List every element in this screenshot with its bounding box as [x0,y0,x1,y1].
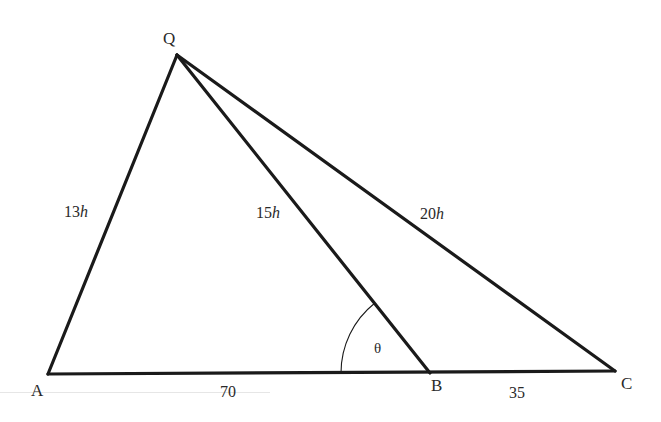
vertex-label-a: A [31,382,43,399]
vertex-label-b: B [431,377,442,394]
segment-qb [177,55,430,373]
length-unit-qb: h [272,204,280,221]
segment-qc [177,55,615,371]
length-label-bc: 35 [509,385,525,401]
length-label-ab: 70 [220,384,236,400]
length-label-qc: 20h [420,206,444,222]
length-label-qa: 13h [64,204,88,220]
length-label-qb: 15h [256,205,280,221]
vertex-label-c: C [621,375,632,392]
angle-label-theta: θ [374,341,381,356]
length-value-qb: 15 [256,204,272,221]
length-value-qc: 20 [420,205,436,222]
triangle-diagram [0,0,661,422]
angle-theta-arc [341,303,375,373]
vertex-label-q: Q [163,30,175,47]
length-unit-qa: h [80,203,88,220]
length-unit-qc: h [436,205,444,222]
length-value-qa: 13 [64,203,80,220]
segment-ac-baseline [48,371,615,374]
